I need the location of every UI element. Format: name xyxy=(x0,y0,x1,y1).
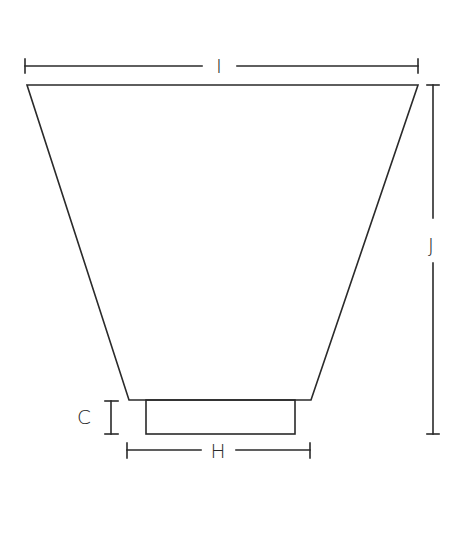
label-j: J xyxy=(428,233,434,257)
fitter-ring xyxy=(146,400,295,434)
dimension-c: C xyxy=(77,401,118,434)
dimension-j: J xyxy=(427,85,439,434)
dimension-h: H xyxy=(127,439,310,463)
label-i: I xyxy=(216,54,222,78)
label-h: H xyxy=(210,439,225,463)
dimension-i: I xyxy=(25,54,418,78)
shade-diagram: I J C H xyxy=(0,0,462,533)
label-c: C xyxy=(77,405,91,429)
shade-outline xyxy=(27,85,418,400)
